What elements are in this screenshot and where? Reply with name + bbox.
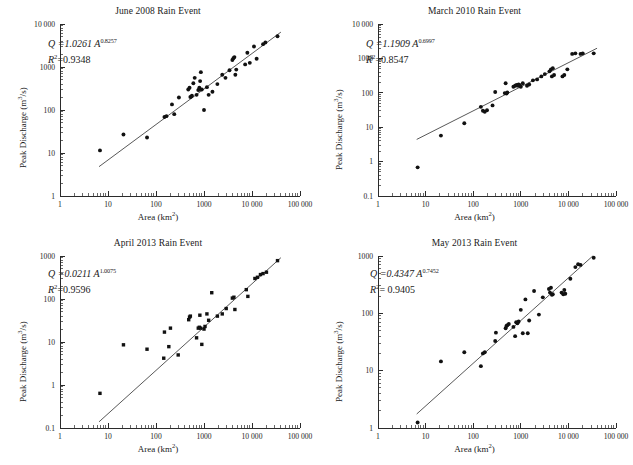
data-point [519, 85, 523, 89]
data-point [592, 256, 596, 260]
data-point [224, 76, 228, 80]
data-point [98, 392, 101, 395]
data-point [511, 325, 515, 329]
svg-text:1: 1 [58, 432, 62, 441]
plot-area: 110100100010 000100 0000.11101001000 [0, 232, 316, 465]
data-point [190, 94, 194, 98]
data-point [485, 108, 489, 112]
data-point [164, 114, 168, 118]
svg-text:1: 1 [369, 157, 373, 166]
svg-text:10: 10 [104, 200, 112, 209]
svg-text:10 000: 10 000 [242, 432, 263, 441]
data-point [543, 72, 547, 76]
svg-text:1: 1 [376, 200, 380, 209]
data-point [541, 295, 545, 299]
data-point [439, 134, 443, 138]
data-point [163, 330, 166, 333]
svg-text:10 000: 10 000 [558, 432, 579, 441]
data-point [176, 353, 179, 356]
data-point [169, 326, 172, 329]
data-point [202, 108, 206, 112]
data-point [211, 90, 215, 94]
data-point [199, 70, 203, 74]
svg-text:100: 100 [150, 432, 162, 441]
panel-june-2008: June 2008 Rain Event Q =1.0261 A0.8257 R… [0, 0, 316, 232]
data-point [232, 296, 235, 299]
data-point [276, 34, 280, 38]
plot-area: 110100100010 000100 0001101001000 [316, 232, 633, 465]
svg-text:1000: 1000 [513, 200, 528, 209]
data-point [205, 85, 209, 89]
data-point [122, 133, 126, 137]
svg-text:10 000: 10 000 [34, 20, 55, 29]
data-point [537, 313, 541, 317]
data-point [232, 55, 236, 59]
data-point [199, 326, 202, 329]
data-point [200, 343, 203, 346]
data-point [245, 51, 249, 55]
data-point [579, 263, 583, 267]
data-point [535, 77, 539, 81]
svg-text:10 000: 10 000 [558, 200, 579, 209]
svg-text:10: 10 [47, 149, 55, 158]
svg-text:10: 10 [365, 366, 373, 375]
svg-text:100 000: 100 000 [604, 200, 629, 209]
data-point [191, 81, 195, 85]
data-point [562, 73, 566, 77]
data-point [527, 319, 531, 323]
data-point [416, 165, 420, 169]
data-point [145, 348, 148, 351]
svg-text:1: 1 [376, 432, 380, 441]
svg-text:0.1: 0.1 [46, 424, 56, 433]
plot-area: 110100100010 000100 0000.1110100100010 0… [316, 0, 633, 232]
data-point [167, 345, 170, 348]
svg-text:1: 1 [369, 424, 373, 433]
svg-text:100: 100 [150, 200, 162, 209]
data-point [462, 121, 466, 125]
svg-text:100 000: 100 000 [288, 432, 313, 441]
data-point [483, 350, 487, 354]
panel-may-2013: May 2013 Rain Event Q =0.4347 A0.7452 R2… [316, 232, 633, 465]
data-point [98, 148, 102, 152]
data-point [521, 81, 525, 85]
data-point [205, 312, 208, 315]
svg-text:1: 1 [51, 381, 55, 390]
svg-text:100: 100 [468, 200, 480, 209]
svg-text:10: 10 [104, 432, 112, 441]
svg-text:1: 1 [58, 200, 62, 209]
data-point [207, 93, 211, 97]
data-point [562, 288, 566, 292]
data-point [122, 343, 125, 346]
data-point [224, 307, 227, 310]
data-point [568, 277, 572, 281]
data-point [531, 78, 535, 82]
data-point [210, 291, 213, 294]
data-point [145, 135, 149, 139]
data-point [216, 314, 219, 317]
svg-text:1: 1 [51, 192, 55, 201]
data-point [565, 67, 569, 71]
svg-text:1000: 1000 [40, 63, 55, 72]
data-point [162, 357, 165, 360]
data-point [234, 68, 238, 72]
data-point [215, 82, 219, 86]
data-point [539, 74, 543, 78]
data-point [248, 61, 252, 65]
svg-text:1000: 1000 [513, 432, 528, 441]
data-point [439, 359, 443, 363]
data-point [228, 68, 232, 72]
data-point [188, 86, 192, 90]
svg-text:1000: 1000 [358, 252, 373, 261]
data-point [246, 295, 249, 298]
data-point [265, 271, 268, 274]
svg-text:100: 100 [468, 432, 480, 441]
data-point [462, 350, 466, 354]
data-point [195, 93, 199, 97]
data-point [504, 81, 508, 85]
data-point [549, 286, 553, 290]
data-point [507, 322, 511, 326]
data-point [513, 334, 517, 338]
svg-text:10 000: 10 000 [242, 200, 263, 209]
data-point [416, 420, 420, 424]
figure-peak-discharge-vs-area: June 2008 Rain Event Q =1.0261 A0.8257 R… [0, 0, 633, 465]
